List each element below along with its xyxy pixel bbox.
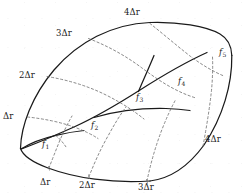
face-label-f3-sub: 3: [139, 96, 143, 103]
ridge-f1-curve: [21, 131, 84, 150]
mesh-latitude-3dr: [147, 99, 176, 181]
face-label-f2-sub: 2: [94, 124, 98, 131]
face-label-f5-sub: 5: [222, 51, 226, 58]
diagram-canvas: [0, 0, 245, 193]
label-right-4dr: 4Δr: [205, 135, 221, 144]
face-label-f1: f1: [42, 140, 49, 149]
mesh-latitude-1dr: [49, 116, 72, 168]
label-bottom-1dr: Δr: [40, 178, 50, 187]
face-label-f5: f5: [219, 48, 226, 57]
face-label-f3: f3: [136, 93, 143, 102]
outline-upper-left: [21, 23, 151, 149]
ridge-main-diagonal: [22, 53, 208, 149]
mesh-longitude-2dr: [47, 77, 144, 120]
face-label-f4-sub: 4: [181, 80, 185, 87]
face-label-f1-sub: 1: [45, 143, 49, 150]
face-label-f2: f2: [91, 121, 98, 130]
face-label-f4: f4: [178, 77, 185, 86]
label-mid-left-2dr: 2Δr: [19, 71, 35, 80]
label-bottom-3dr: 3Δr: [138, 183, 154, 192]
outline-lower-right: [150, 56, 232, 182]
label-bottom-2dr: 2Δr: [79, 181, 95, 190]
label-upper-left-3dr: 3Δr: [56, 29, 72, 38]
label-left-1dr: Δr: [3, 112, 13, 121]
label-top-4dr: 4Δr: [124, 8, 140, 17]
